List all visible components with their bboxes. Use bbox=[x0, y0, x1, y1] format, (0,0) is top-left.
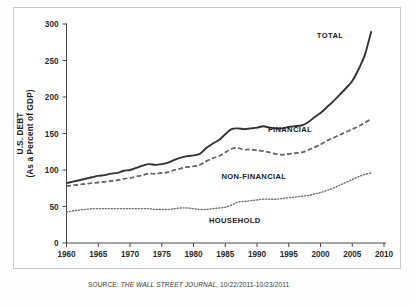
series-label-household: HOUSEHOLD bbox=[209, 216, 261, 225]
x-tick-label: 1980 bbox=[184, 250, 203, 259]
y-axis-title-line2: (As a Percent of GDP) bbox=[26, 89, 35, 177]
y-axis-title: U.S. DEBT(As a Percent of GDP) bbox=[16, 89, 36, 177]
series-line-total bbox=[67, 31, 372, 183]
x-tick-label: 1985 bbox=[216, 250, 235, 259]
y-axis-title-line1: U.S. DEBT bbox=[16, 113, 25, 155]
x-tick-label: 2010 bbox=[375, 250, 394, 259]
x-tick-label: 2005 bbox=[343, 250, 362, 259]
source-publication: THE WALL STREET JOURNAL, bbox=[121, 281, 220, 288]
series-group bbox=[67, 31, 372, 212]
x-tick-label: 1990 bbox=[248, 250, 267, 259]
debt-gdp-line-chart: 0501001502002503001960196519701975198019… bbox=[0, 0, 415, 306]
source-dates: 10/22/2011-10/23/2011 bbox=[220, 281, 290, 288]
series-label-total: TOTAL bbox=[317, 31, 343, 40]
x-tick-label: 1995 bbox=[280, 250, 299, 259]
x-tick-label: 1965 bbox=[89, 250, 108, 259]
series-line-non-financial bbox=[67, 119, 372, 186]
series-label-financial: FINANCIAL bbox=[268, 125, 312, 134]
x-tick-label: 1975 bbox=[153, 250, 172, 259]
series-annotation-group: TOTALFINANCIALNON-FINANCIALHOUSEHOLD bbox=[209, 31, 343, 225]
chart-figure: 0501001502002503001960196519701975198019… bbox=[0, 0, 415, 306]
y-tick-label: 250 bbox=[45, 57, 59, 66]
series-line-household bbox=[67, 173, 372, 212]
source-note: SOURCE: THE WALL STREET JOURNAL, 10/22/2… bbox=[88, 281, 290, 288]
y-tick-label: 50 bbox=[49, 203, 59, 212]
y-tick-label: 100 bbox=[45, 166, 59, 175]
source-prefix: SOURCE: bbox=[88, 281, 121, 288]
y-tick-label: 150 bbox=[45, 130, 59, 139]
y-tick-label: 200 bbox=[45, 93, 59, 102]
x-tick-group: 1960196519701975198019851990199520002005… bbox=[57, 243, 393, 259]
y-tick-label: 300 bbox=[45, 20, 59, 29]
x-tick-label: 2000 bbox=[311, 250, 330, 259]
series-line-financial bbox=[67, 119, 372, 186]
y-tick-label: 0 bbox=[54, 239, 59, 248]
series-label-non-financial: NON-FINANCIAL bbox=[221, 172, 286, 181]
source-text: SOURCE: THE WALL STREET JOURNAL, 10/22/2… bbox=[88, 281, 290, 288]
x-tick-label: 1960 bbox=[57, 250, 76, 259]
x-tick-label: 1970 bbox=[121, 250, 140, 259]
y-tick-group: 050100150200250300 bbox=[45, 20, 67, 248]
